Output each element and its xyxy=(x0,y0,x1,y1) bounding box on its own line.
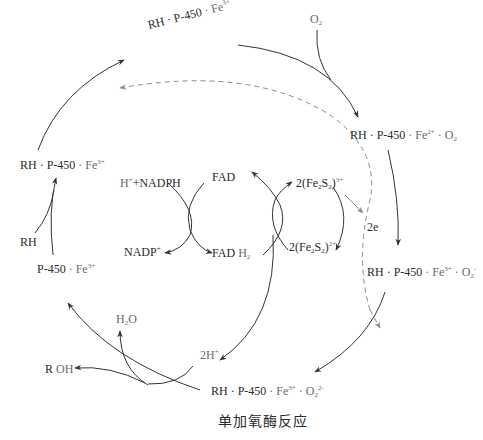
node-fad: FAD xyxy=(212,170,235,184)
node-2e: 2e xyxy=(367,220,378,234)
arrow-fad-to-fadh2 xyxy=(188,183,212,253)
arrow-right1-to-right2 xyxy=(388,150,398,245)
node-rh: RH xyxy=(20,235,37,249)
node-p450-fe3: P-450 · Fe3+ xyxy=(37,262,95,276)
node-fe2s2-reduced: 2(Fe2S2)2+ xyxy=(289,240,336,254)
arrow-right2-to-bottom xyxy=(315,292,385,372)
node-rh-p450-fe3-o2-minus: RH · P-450 · Fe3+ · O2- xyxy=(367,265,476,279)
node-h-nadph: H++NADPH xyxy=(120,176,181,190)
node-rh-p450-fe3-o2-2minus: RH · P-450 · Fe3+ · O22- xyxy=(211,384,324,398)
arrow-to-h2o xyxy=(120,331,148,385)
dashed-electron-path xyxy=(120,81,372,310)
arrow-fes-to-2e xyxy=(345,195,363,213)
arrow-fadh2-to-fad xyxy=(252,172,283,255)
arrow-left-p450-up xyxy=(51,178,56,255)
node-o2: O2 xyxy=(310,12,322,26)
arrow-to-roh xyxy=(75,368,145,383)
node-rh-p450-fe2-o2: RH · P-450 · Fe2+ · O2 xyxy=(350,128,457,142)
arrow-nadph-to-nadp xyxy=(165,183,192,253)
node-h2o: H2O xyxy=(116,312,137,326)
dashed-electron-path-lower xyxy=(370,310,380,328)
node-fadh2: FAD H2 xyxy=(212,246,250,260)
arrow-2h-in xyxy=(148,366,193,384)
p450-monooxygenase-cycle-diagram: RH · P-450 · Fe3+ O2 RH · P-450 · Fe2+ ·… xyxy=(0,0,483,440)
arrow-left-to-top xyxy=(38,60,124,150)
node-2h-plus: 2H+ xyxy=(200,348,219,362)
node-rh-p450-fe3-left: RH · P-450 · Fe3+ xyxy=(20,158,105,172)
node-nadp-plus: NADP+ xyxy=(124,245,161,259)
arrow-o2-in xyxy=(317,30,331,80)
node-fe2s2-oxidized: 2(Fe2S2)3+ xyxy=(296,176,343,190)
arrow-top-to-right1 xyxy=(238,45,358,117)
figure-caption: 单加氧酶反应 xyxy=(218,410,308,430)
node-roh: R OH xyxy=(45,362,73,376)
